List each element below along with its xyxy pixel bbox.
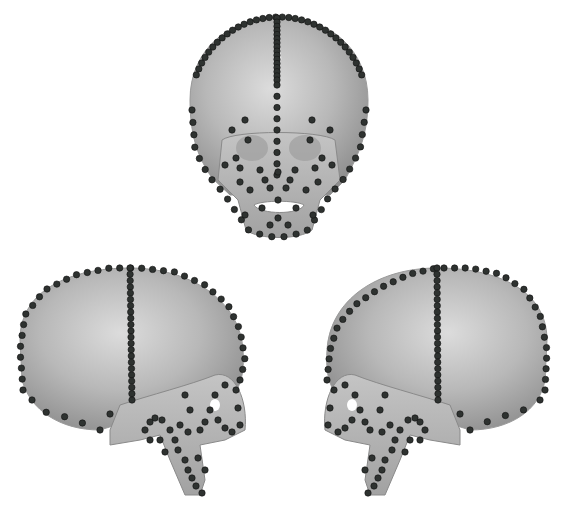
- landmark-point: [356, 66, 362, 72]
- landmark-point: [129, 378, 135, 384]
- landmark-point: [237, 179, 243, 185]
- landmark-point: [191, 132, 197, 138]
- landmark-point: [128, 365, 134, 371]
- landmark-point: [363, 107, 369, 113]
- landmark-point: [274, 127, 280, 133]
- landmark-point: [129, 397, 135, 403]
- landmark-point: [359, 131, 365, 137]
- landmark-point: [181, 273, 187, 279]
- landmark-point: [346, 308, 352, 314]
- landmark-point: [347, 166, 353, 172]
- landmark-point: [331, 387, 337, 393]
- landmark-point: [332, 186, 338, 192]
- landmark-point: [324, 196, 330, 202]
- landmark-point: [30, 302, 36, 308]
- landmark-point: [127, 265, 133, 271]
- landmark-point: [292, 15, 298, 21]
- landmark-point: [371, 289, 377, 295]
- right-lateral-orbit: [347, 399, 357, 411]
- landmark-point: [435, 353, 441, 359]
- landmark-point: [202, 419, 208, 425]
- landmark-point: [357, 144, 363, 150]
- landmark-point: [434, 296, 440, 302]
- landmark-point: [127, 296, 133, 302]
- landmark-point: [172, 437, 178, 443]
- landmark-point: [235, 24, 241, 30]
- landmark-point: [202, 166, 208, 172]
- landmark-point: [43, 409, 49, 415]
- landmark-point: [266, 14, 272, 20]
- landmark-point: [349, 417, 355, 423]
- landmark-point: [317, 24, 323, 30]
- landmark-point: [367, 427, 373, 433]
- landmark-point: [539, 324, 545, 330]
- landmark-point: [229, 27, 235, 33]
- landmark-point: [128, 340, 134, 346]
- landmark-point: [537, 397, 543, 403]
- landmark-point: [19, 376, 25, 382]
- landmark-point: [274, 116, 280, 122]
- landmark-point: [527, 295, 533, 301]
- landmark-point: [160, 268, 166, 274]
- landmark-point: [434, 277, 440, 283]
- landmark-point: [434, 309, 440, 315]
- landmark-point: [387, 422, 393, 428]
- landmark-point: [379, 467, 385, 473]
- landmark-point: [389, 447, 395, 453]
- landmark-point: [17, 354, 23, 360]
- landmark-point: [215, 417, 221, 423]
- landmark-point: [503, 275, 509, 281]
- landmark-point: [382, 392, 388, 398]
- landmark-point: [298, 17, 304, 23]
- landmark-point: [20, 321, 26, 327]
- landmark-point: [390, 279, 396, 285]
- landmark-point: [319, 155, 325, 161]
- landmark-point: [435, 365, 441, 371]
- landmark-point: [253, 17, 259, 23]
- left-orbit: [236, 135, 268, 161]
- landmark-point: [262, 177, 268, 183]
- landmark-point: [167, 427, 173, 433]
- landmark-point: [435, 378, 441, 384]
- landmark-point: [95, 267, 101, 273]
- landmark-point: [107, 411, 113, 417]
- landmark-point: [222, 162, 228, 168]
- landmark-point: [54, 281, 60, 287]
- landmark-point: [226, 304, 232, 310]
- landmark-point: [285, 222, 291, 228]
- landmark-point: [196, 155, 202, 161]
- right-lateral-skull: [324, 265, 550, 496]
- landmark-point: [451, 265, 457, 271]
- landmark-point: [242, 356, 248, 362]
- landmark-point: [129, 391, 135, 397]
- landmark-point: [106, 265, 112, 271]
- landmark-point: [193, 483, 199, 489]
- landmark-point: [286, 14, 292, 20]
- landmark-point: [275, 169, 281, 175]
- landmark-point: [350, 54, 356, 60]
- landmark-point: [435, 397, 441, 403]
- landmark-point: [422, 427, 428, 433]
- landmark-point: [293, 205, 299, 211]
- landmark-point: [335, 429, 341, 435]
- landmark-point: [402, 449, 408, 455]
- landmark-point: [222, 425, 228, 431]
- landmark-point: [36, 294, 42, 300]
- landmark-point: [117, 265, 123, 271]
- landmark-point: [18, 365, 24, 371]
- landmark-point: [542, 387, 548, 393]
- landmark-point: [20, 387, 26, 393]
- landmark-point: [177, 422, 183, 428]
- landmark-point: [435, 391, 441, 397]
- landmark-point: [127, 284, 133, 290]
- landmark-point: [182, 457, 188, 463]
- landmark-point: [63, 276, 69, 282]
- landmark-point: [274, 161, 280, 167]
- landmark-point: [229, 429, 235, 435]
- landmark-point: [201, 282, 207, 288]
- landmark-point: [193, 72, 199, 78]
- landmark-point: [17, 343, 23, 349]
- skull-landmark-figure: [0, 0, 567, 506]
- landmark-point: [379, 429, 385, 435]
- landmark-point: [352, 392, 358, 398]
